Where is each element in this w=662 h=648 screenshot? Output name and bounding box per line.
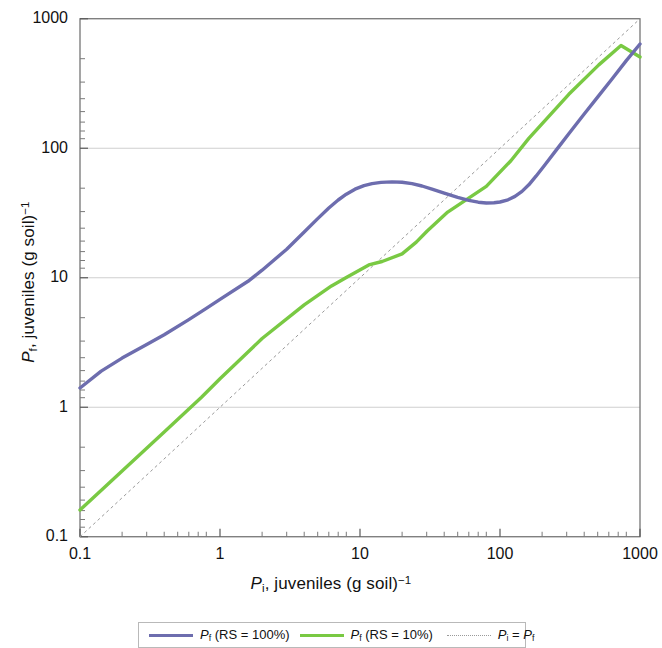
x-axis-title-rest: , juveniles (g soil)	[265, 574, 398, 593]
x-tick-label-1: 1	[180, 545, 260, 563]
x-tick-label-10: 10	[320, 545, 400, 563]
y-axis-title-rest: , juveniles (g soil)	[19, 215, 38, 348]
legend-label-rs100: Pf (RS = 100%)	[200, 627, 290, 643]
legend-swatch-blue-line-icon	[149, 634, 193, 637]
y-tick-label-0.1: 0.1	[6, 527, 68, 545]
x-axis-title-symbol: P	[251, 574, 262, 593]
x-axis-minor-ticks	[122, 532, 626, 537]
x-tick-label-0.1: 0.1	[40, 545, 120, 563]
legend-rs100-symbol: P	[200, 627, 209, 642]
legend-rs10-rest: (RS = 10%)	[362, 627, 433, 642]
y-axis-minor-ticks	[80, 59, 85, 528]
y-axis-title-symbol: P	[19, 351, 38, 362]
y-axis-major-ticks	[80, 19, 88, 537]
legend-label-rs10: Pf (RS = 10%)	[351, 627, 433, 643]
y-axis-title-superscript: −1	[19, 201, 31, 214]
chart-legend: Pf (RS = 100%) Pf (RS = 10%) Pi = Pf	[138, 622, 526, 648]
legend-rs10-symbol: P	[351, 627, 360, 642]
y-tick-label-1000: 1000	[6, 9, 68, 27]
y-axis-title: Pf, juveniles (g soil)−1	[19, 137, 39, 427]
legend-item-rs10[interactable]: Pf (RS = 10%)	[290, 623, 433, 647]
legend-identity-symbol-2: P	[523, 627, 532, 642]
legend-swatch-green-line-icon	[300, 634, 344, 637]
legend-item-rs100[interactable]: Pf (RS = 100%)	[139, 623, 290, 647]
legend-label-identity: Pi = Pf	[498, 627, 535, 643]
legend-swatch-dotted-line-icon	[447, 635, 491, 636]
x-tick-label-100: 100	[460, 545, 540, 563]
x-axis-title-superscript: −1	[398, 574, 411, 586]
y-axis-title-subscript: f	[27, 348, 39, 351]
legend-rs100-rest: (RS = 100%)	[211, 627, 289, 642]
x-tick-label-1000: 1000	[600, 545, 662, 563]
x-axis-title: Pi, juveniles (g soil)−1	[0, 574, 662, 594]
legend-identity-operator: =	[508, 627, 523, 642]
series-line-rs100	[80, 44, 640, 388]
legend-identity-subscript-2: f	[532, 633, 534, 643]
legend-item-identity[interactable]: Pi = Pf	[433, 623, 535, 647]
legend-identity-symbol-1: P	[498, 627, 507, 642]
